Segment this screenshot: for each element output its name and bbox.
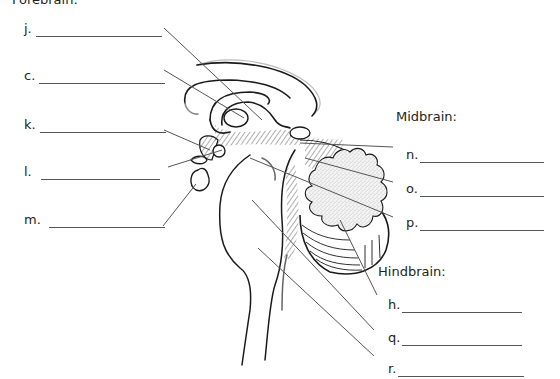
pons-hatch xyxy=(284,165,298,260)
brainstem-outline xyxy=(220,150,295,365)
cerebrum-outline xyxy=(185,60,320,133)
thalamus-hatch xyxy=(215,125,300,148)
brain-sagittal-diagram xyxy=(0,0,560,379)
cerebellum-folia xyxy=(302,225,380,270)
leader-l xyxy=(168,150,222,167)
leader-m xyxy=(163,184,196,226)
leader-r xyxy=(258,248,374,356)
interthalamic-mass xyxy=(224,109,248,127)
pineal-region xyxy=(290,127,310,139)
